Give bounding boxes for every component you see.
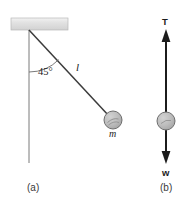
free-body-bob [157, 112, 175, 130]
ceiling-support-bar [11, 18, 68, 30]
string-length-label: l [76, 62, 79, 73]
weight-label: w [162, 168, 169, 178]
physics-figure-pendulum: 45° l m T w (a) (b) [0, 0, 190, 205]
tension-arrow-head [162, 29, 171, 42]
panel-a-group [11, 18, 122, 163]
panel-b-group [157, 29, 175, 164]
caption-panel-b: (b) [160, 183, 172, 193]
caption-panel-a: (a) [27, 183, 39, 193]
mass-label: m [109, 129, 116, 139]
angle-label-45deg: 45° [38, 67, 53, 78]
tension-label: T [162, 17, 168, 27]
weight-arrow-head [162, 151, 171, 164]
pendulum-bob [104, 111, 122, 129]
